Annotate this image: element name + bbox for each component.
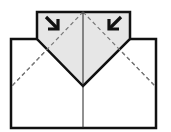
origami-diagram: [0, 0, 171, 132]
